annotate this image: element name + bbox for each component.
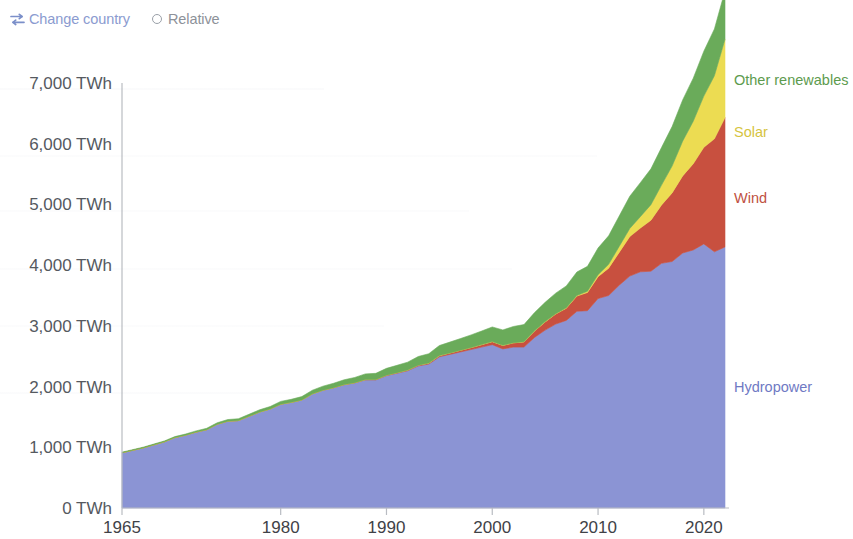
y-tick-label: 1,000 TWh xyxy=(29,438,112,457)
x-tick-label: 1965 xyxy=(103,518,141,537)
series-label-other-renewables[interactable]: Other renewables xyxy=(734,72,848,88)
y-axis-tick-labels: 0 TWh1,000 TWh2,000 TWh3,000 TWh4,000 TW… xyxy=(29,74,112,518)
y-tick-label: 2,000 TWh xyxy=(29,378,112,397)
series-inline-labels: HydropowerWindSolarOther renewables xyxy=(734,72,848,395)
chart-canvas[interactable]: 0 TWh1,000 TWh2,000 TWh3,000 TWh4,000 TW… xyxy=(0,0,853,539)
area-series-hydropower[interactable] xyxy=(122,244,725,508)
stacked-area-chart[interactable]: 0 TWh1,000 TWh2,000 TWh3,000 TWh4,000 TW… xyxy=(0,0,853,539)
y-tick-label: 4,000 TWh xyxy=(29,256,112,275)
series-label-solar[interactable]: Solar xyxy=(734,124,768,140)
series-label-wind[interactable]: Wind xyxy=(734,190,767,206)
x-tick-label: 2000 xyxy=(473,518,511,537)
x-tick-label: 1990 xyxy=(368,518,406,537)
series-label-hydropower[interactable]: Hydropower xyxy=(734,379,812,395)
y-tick-label: 3,000 TWh xyxy=(29,317,112,336)
chart-areas xyxy=(122,0,725,508)
y-tick-label: 7,000 TWh xyxy=(29,74,112,93)
x-tick-label: 1980 xyxy=(262,518,300,537)
x-tick-label: 2020 xyxy=(685,518,723,537)
y-tick-label: 5,000 TWh xyxy=(29,195,112,214)
y-tick-label: 0 TWh xyxy=(62,499,112,518)
x-axis-tick-labels: 196519801990200020102020 xyxy=(103,518,723,537)
x-tick-label: 2010 xyxy=(579,518,617,537)
y-tick-label: 6,000 TWh xyxy=(29,135,112,154)
